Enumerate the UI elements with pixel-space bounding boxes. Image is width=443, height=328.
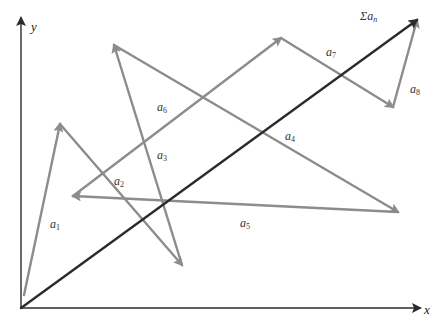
vector-diagram — [0, 0, 443, 328]
vector-label-a2: a2 — [114, 175, 124, 189]
vector-label-a6: a6 — [157, 101, 167, 115]
vector-a2 — [60, 124, 182, 265]
vector-a1 — [24, 124, 60, 295]
x-axis-label: x — [424, 303, 430, 316]
resultant-arrow — [21, 20, 417, 308]
vector-label-a1: a1 — [50, 218, 60, 232]
vector-label-a4: a4 — [285, 130, 295, 144]
vector-label-a5: a5 — [240, 217, 250, 231]
vectors — [24, 20, 417, 295]
vector-label-a8: a8 — [410, 83, 420, 97]
y-axis-label: y — [31, 20, 37, 33]
resultant-vector — [21, 20, 417, 308]
resultant-label: Σan — [360, 10, 377, 24]
vector-label-a7: a7 — [326, 46, 336, 60]
vector-a6 — [73, 38, 281, 196]
vector-a5 — [73, 196, 398, 212]
vector-label-a3: a3 — [157, 149, 167, 163]
vector-a4 — [114, 45, 398, 212]
